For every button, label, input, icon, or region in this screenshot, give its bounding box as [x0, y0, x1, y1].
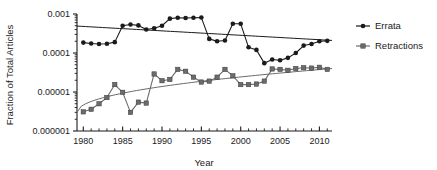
- x-axis-ticks: 1980198519901995200020052010: [73, 127, 329, 147]
- data-point: [120, 23, 125, 28]
- x-tick-label: 2000: [231, 136, 251, 146]
- data-point: [136, 23, 141, 28]
- data-point: [301, 43, 306, 48]
- legend-marker: [361, 24, 366, 29]
- y-tick-label: 0.0001: [42, 48, 70, 58]
- data-point: [223, 67, 227, 71]
- data-point: [262, 61, 267, 66]
- data-point: [278, 58, 283, 63]
- data-point: [325, 39, 330, 44]
- series-line: [83, 18, 327, 64]
- data-point: [262, 79, 266, 83]
- data-point: [191, 75, 195, 79]
- data-point: [105, 95, 109, 99]
- data-point: [81, 40, 86, 45]
- data-point: [309, 42, 314, 47]
- x-tick-label: 2010: [309, 136, 329, 146]
- data-point: [286, 56, 291, 61]
- data-point: [238, 22, 243, 27]
- data-point: [175, 15, 180, 20]
- data-point: [215, 75, 219, 79]
- legend-marker: [361, 44, 365, 48]
- data-point: [270, 67, 274, 71]
- data-point: [89, 107, 93, 111]
- data-point: [254, 48, 259, 53]
- data-point: [286, 68, 290, 72]
- y-axis-title-text: Fraction of Total Articles: [4, 24, 15, 125]
- data-point: [136, 100, 140, 104]
- line-chart: Fraction of Total Articles Year 0.0010.0…: [0, 0, 437, 170]
- data-point: [183, 16, 188, 21]
- data-point: [294, 66, 298, 70]
- data-point: [294, 51, 299, 56]
- data-point: [144, 27, 149, 32]
- data-point: [231, 74, 235, 78]
- y-tick-label: 0.00001: [37, 87, 70, 97]
- series-lines: [83, 18, 327, 113]
- chart-legend: ErrataRetractions: [356, 20, 423, 51]
- data-point: [239, 82, 243, 86]
- data-point: [270, 57, 275, 62]
- x-tick-label: 1990: [152, 136, 172, 146]
- data-point: [105, 42, 110, 47]
- trendline: [77, 26, 332, 40]
- y-axis-title: Fraction of Total Articles: [4, 24, 15, 125]
- data-point: [301, 65, 305, 69]
- data-point: [89, 41, 94, 46]
- series-line: [83, 67, 327, 112]
- data-point: [120, 90, 124, 94]
- data-point: [176, 67, 180, 71]
- data-point: [81, 110, 85, 114]
- data-point: [246, 45, 251, 50]
- data-point: [207, 37, 212, 42]
- data-point: [325, 67, 329, 71]
- data-point: [168, 77, 172, 81]
- x-tick-label: 1985: [113, 136, 133, 146]
- x-axis-title-text: Year: [194, 157, 213, 168]
- data-point: [207, 79, 211, 83]
- data-point: [128, 22, 133, 27]
- data-point: [278, 67, 282, 71]
- data-point: [160, 23, 165, 28]
- data-point: [128, 110, 132, 114]
- y-axis-ticks: 0.0010.00010.000010.000001: [32, 9, 77, 136]
- y-tick-label: 0.000001: [32, 126, 70, 136]
- data-point: [199, 80, 203, 84]
- data-point: [254, 82, 258, 86]
- y-tick-label: 0.001: [47, 9, 70, 19]
- data-point: [168, 16, 173, 21]
- x-axis-title: Year: [194, 157, 213, 168]
- series-markers: [81, 15, 330, 114]
- data-point: [191, 15, 196, 20]
- data-point: [183, 69, 187, 73]
- data-point: [144, 101, 148, 105]
- data-point: [317, 65, 321, 69]
- legend-label: Retractions: [375, 40, 423, 51]
- legend-label: Errata: [375, 20, 402, 31]
- trendline: [77, 69, 332, 113]
- x-tick-label: 1995: [191, 136, 211, 146]
- chart-figure: Fraction of Total Articles Year 0.0010.0…: [0, 0, 437, 170]
- data-point: [152, 26, 157, 31]
- x-tick-label: 1980: [73, 136, 93, 146]
- data-point: [309, 66, 313, 70]
- axis-lines: [77, 14, 332, 131]
- data-point: [246, 82, 250, 86]
- data-point: [199, 15, 204, 20]
- data-point: [160, 78, 164, 82]
- data-point: [152, 72, 156, 76]
- data-point: [97, 102, 101, 106]
- x-tick-label: 2005: [270, 136, 290, 146]
- data-point: [97, 42, 102, 47]
- data-point: [231, 22, 236, 27]
- data-point: [223, 38, 228, 43]
- data-point: [317, 39, 322, 44]
- data-point: [112, 40, 117, 45]
- data-point: [215, 39, 220, 44]
- data-point: [113, 82, 117, 86]
